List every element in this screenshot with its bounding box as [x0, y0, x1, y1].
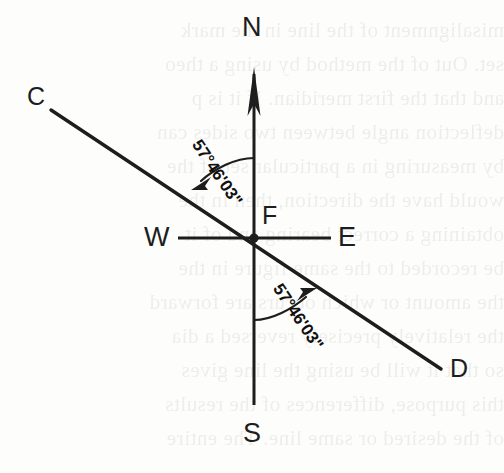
east-label: E [338, 224, 356, 251]
station-point-f [249, 233, 258, 242]
south-label: S [243, 420, 261, 447]
lower-angle-arrowhead-icon [297, 288, 317, 301]
upper-angle-arrowhead-icon [191, 177, 211, 190]
north-label: N [242, 14, 262, 41]
point-label-f: F [262, 203, 277, 228]
west-label: W [144, 224, 169, 251]
bearing-diagram-figure: misalignment of the line in the mark set… [0, 0, 504, 473]
diagram-canvas [0, 0, 504, 473]
line-cd [51, 110, 441, 369]
point-label-c: C [27, 84, 45, 109]
point-label-d: D [450, 356, 468, 381]
